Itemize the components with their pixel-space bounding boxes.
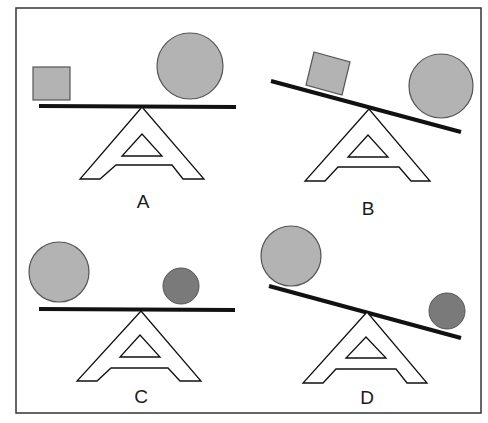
beam <box>39 106 236 107</box>
panel-a: A <box>33 33 236 212</box>
panel-label-b: B <box>362 198 375 219</box>
tilted-square-object <box>306 52 350 95</box>
panel-d: D <box>261 226 465 408</box>
panel-b: B <box>271 52 473 219</box>
frame-border <box>16 8 481 413</box>
small-dark-circle-object <box>429 293 465 329</box>
square-object <box>33 67 70 100</box>
large-circle-object <box>409 54 473 118</box>
small-dark-circle-object <box>163 268 199 304</box>
large-light-circle-object <box>29 242 89 302</box>
panel-c: C <box>29 242 235 407</box>
panel-label-d: D <box>360 387 374 408</box>
large-circle-object <box>157 33 223 99</box>
panel-label-c: C <box>134 386 148 407</box>
large-light-circle-object <box>261 226 321 286</box>
panel-label-a: A <box>137 191 150 212</box>
beam <box>39 309 235 310</box>
fulcrum-a-shape <box>80 107 204 179</box>
fulcrum-a-shape <box>77 311 201 381</box>
balance-diagram: A B C D <box>0 0 488 423</box>
